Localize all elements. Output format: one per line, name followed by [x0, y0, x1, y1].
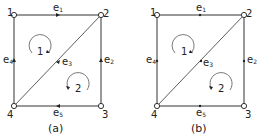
caption-a: (a) — [48, 122, 63, 135]
caption-b: (b) — [191, 122, 207, 135]
node-label-4: 4 — [7, 109, 13, 120]
edge-label-e4: e4 — [3, 54, 13, 65]
graph-diagram: 1 2 3 4 e1 e2 e3 e4 e5 1 2 (a) — [0, 0, 259, 137]
node-4 — [11, 103, 16, 108]
edge-label-e5: e5 — [53, 107, 63, 118]
loop-label-1: 1 — [37, 46, 43, 57]
node-3 — [98, 103, 103, 108]
node-3 — [241, 103, 246, 108]
node-label-2: 2 — [103, 8, 109, 19]
loop-2-arrow-icon — [66, 86, 70, 90]
edge-label-e1: e1 — [53, 2, 63, 13]
node-label-3: 3 — [102, 109, 108, 120]
edge-label-e2: e2 — [247, 54, 257, 65]
dot-e1-icon — [199, 14, 201, 16]
edge-e3 — [14, 15, 101, 106]
node-label-2: 2 — [246, 8, 252, 19]
loop-label-1: 1 — [181, 46, 187, 57]
edge-label-e3: e3 — [62, 56, 72, 67]
arrow-e1-icon — [56, 13, 60, 17]
node-label-1: 1 — [150, 7, 156, 18]
node-label-1: 1 — [7, 7, 13, 18]
loop-2-arrow-icon — [209, 86, 213, 90]
panel-a: 1 2 3 4 e1 e2 e3 e4 e5 1 2 (a) — [3, 2, 114, 135]
dot-e3-icon — [200, 60, 202, 62]
node-label-4: 4 — [151, 109, 157, 120]
node-4 — [154, 103, 159, 108]
loop-label-2: 2 — [75, 83, 81, 94]
dot-e4-icon — [156, 60, 158, 62]
loop-label-2: 2 — [218, 83, 224, 94]
edge-label-e1: e1 — [196, 2, 206, 13]
edge-label-e3: e3 — [203, 57, 213, 68]
arrow-e3-icon — [56, 60, 60, 64]
dot-e2-icon — [243, 60, 245, 62]
arrow-e2-icon — [99, 58, 103, 62]
panel-b: 1 2 3 4 e1 e2 e3 e4 e5 1 2 (b) — [146, 2, 257, 135]
node-label-3: 3 — [245, 109, 251, 120]
edge-label-e2: e2 — [104, 54, 114, 65]
edge-label-e4: e4 — [146, 54, 156, 65]
edge-label-e5: e5 — [196, 107, 206, 118]
